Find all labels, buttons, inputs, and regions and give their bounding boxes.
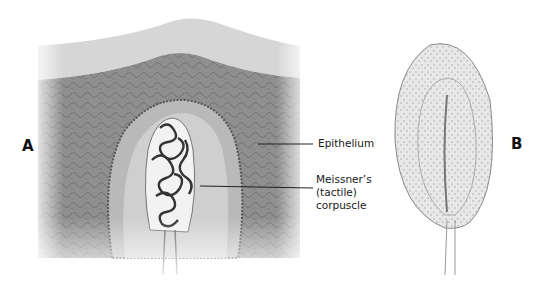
panel-a-illustration	[30, 15, 310, 285]
label-corpuscle-line2: (tactile)	[316, 186, 357, 198]
figure: A B Epithelium Meissner’s (tactile) corp…	[0, 0, 545, 288]
label-epithelium: Epithelium	[318, 137, 374, 149]
label-corpuscle-line1: Meissner’s	[316, 173, 372, 185]
panel-label-b: B	[511, 135, 522, 153]
panel-label-a: A	[22, 137, 34, 155]
label-corpuscle-line3: corpuscle	[316, 199, 366, 211]
illustration	[0, 0, 545, 288]
panel-b-illustration	[395, 44, 493, 275]
